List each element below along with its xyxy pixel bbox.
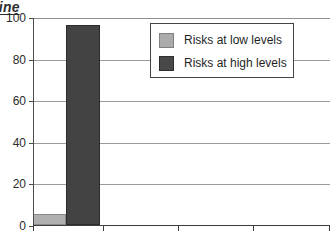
ylabel-60: 60 [13, 94, 26, 108]
x-axis-line [33, 225, 330, 226]
xtick-3 [253, 225, 254, 231]
legend-item-high: Risks at high levels [159, 55, 287, 71]
xtick-0 [33, 225, 34, 231]
legend-label-low: Risks at low levels [184, 33, 282, 47]
y-axis-line [33, 18, 34, 226]
xtick-2 [178, 225, 179, 231]
legend-item-low: Risks at low levels [159, 32, 282, 48]
ylabel-80: 80 [13, 53, 26, 67]
legend-swatch-low-icon [159, 33, 174, 48]
ylabel-40: 40 [13, 136, 26, 150]
bar-risks-low [33, 214, 66, 225]
ylabel-100: 100 [6, 11, 26, 25]
chart-legend: Risks at low levels Risks at high levels [150, 23, 294, 78]
xtick-1 [103, 225, 104, 231]
legend-label-high: Risks at high levels [184, 56, 287, 70]
legend-swatch-high-icon [159, 56, 174, 71]
ylabel-20: 20 [13, 177, 26, 191]
gridline-100 [33, 18, 330, 19]
chart-screenshot: naline 100 80 60 40 20 0 [0, 0, 332, 243]
bar-risks-high [66, 25, 100, 225]
ylabel-0: 0 [19, 219, 26, 233]
xtick-4 [329, 225, 330, 231]
